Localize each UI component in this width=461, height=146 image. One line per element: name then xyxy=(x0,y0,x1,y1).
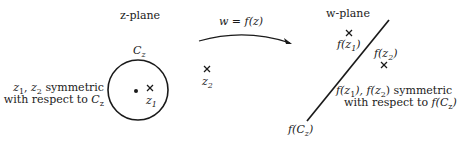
w-symmetric-note-line2: with respect to f(Cz) xyxy=(344,96,457,111)
conformal-map-diagram: z-plane Cz z1 z2 z1, z2 symmetric with r… xyxy=(0,0,461,146)
z-symmetric-note-line2: with respect to Cz xyxy=(4,93,104,108)
z2-label: z2 xyxy=(201,75,213,90)
arrowhead-icon xyxy=(284,38,292,44)
circle-cz xyxy=(108,60,168,120)
center-dot xyxy=(134,89,138,93)
fz2-label: f(z2) xyxy=(373,47,398,62)
fz1-label: f(z1) xyxy=(336,38,361,53)
x-marker-z2-icon xyxy=(204,66,210,72)
w-plane-title: w-plane xyxy=(326,7,370,20)
mapping-arrow xyxy=(199,35,290,43)
circle-label: Cz xyxy=(133,44,146,59)
line-label-f-cz: f(Cz) xyxy=(287,123,313,138)
z-plane-title: z-plane xyxy=(120,9,160,22)
mapping-label: w = f(z) xyxy=(219,15,263,28)
x-marker-fz1-icon xyxy=(346,30,352,36)
x-marker-z1-icon xyxy=(147,85,153,91)
x-marker-fz2-icon xyxy=(381,62,387,68)
z1-label: z1 xyxy=(145,94,157,109)
